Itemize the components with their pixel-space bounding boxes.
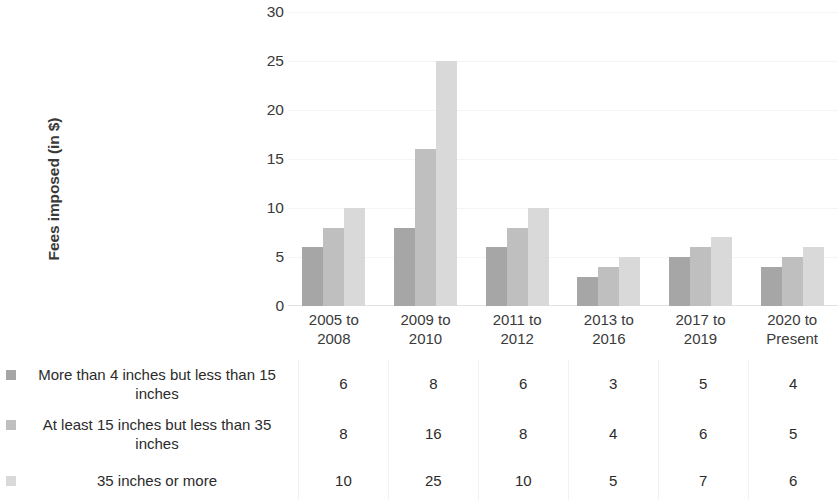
gridline-25 [288,61,838,62]
x-category-label: 2017 to2019 [655,310,747,348]
bar[interactable] [690,247,711,306]
bar[interactable] [577,277,598,306]
table-cell-value: 5 [748,407,838,460]
x-category-label-line: Present [746,329,838,348]
legend-label: At least 15 inches but less than 35 inch… [20,415,294,453]
bar[interactable] [415,149,436,306]
bar-group [302,12,365,306]
bar[interactable] [344,208,365,306]
gridline-5 [288,257,838,258]
table-cell-value: 4 [568,407,658,460]
table-cell-value: 6 [658,407,748,460]
legend-swatch-icon [6,476,16,486]
x-category-label-line: 2019 [655,329,747,348]
x-category-label: 2011 to2012 [471,310,563,348]
gridline-10 [288,208,838,209]
table-cell-value: 25 [388,460,478,500]
bar[interactable] [302,247,323,306]
table-cell-value: 5 [568,460,658,500]
table-row: 35 inches or more102510576 [0,460,838,500]
bar[interactable] [323,228,344,306]
y-tick-0: 0 [250,297,284,315]
bar[interactable] [528,208,549,306]
table-cell-value: 6 [478,360,568,407]
table-cell-value: 6 [748,460,838,500]
table-cell-value: 16 [388,407,478,460]
plot-area [288,12,838,306]
x-category-label-line: 2013 to [563,310,655,329]
gridline-30 [288,12,838,13]
bar[interactable] [711,237,732,306]
y-tick-20: 20 [250,101,284,119]
y-axis-title: Fees imposed (in $) [45,69,63,309]
x-category-label-line: 2011 to [471,310,563,329]
x-axis-baseline [288,305,838,306]
x-category-label-line: 2020 to [746,310,838,329]
table-cell-value: 10 [299,460,389,500]
data-table: More than 4 inches but less than 15 inch… [0,360,838,500]
table-row: At least 15 inches but less than 35 inch… [0,407,838,460]
legend-entry[interactable]: At least 15 inches but less than 35 inch… [0,407,299,460]
bar-group [394,12,457,306]
bar[interactable] [803,247,824,306]
y-tick-5: 5 [250,248,284,266]
table-cell-value: 8 [299,407,389,460]
gridline-20 [288,110,838,111]
x-category-label-line: 2009 to [380,310,472,329]
bar-group [761,12,824,306]
x-category-label-line: 2012 [471,329,563,348]
y-tick-25: 25 [250,52,284,70]
bar[interactable] [394,228,415,306]
table-cell-value: 4 [748,360,838,407]
bar-group [577,12,640,306]
legend-swatch-icon [6,370,16,380]
bar[interactable] [486,247,507,306]
table-cell-value: 8 [478,407,568,460]
bar[interactable] [619,257,640,306]
x-category-label-line: 2016 [563,329,655,348]
table-cell-value: 8 [388,360,478,407]
bar[interactable] [669,257,690,306]
x-category-label: 2020 toPresent [746,310,838,348]
table-cell-value: 10 [478,460,568,500]
legend-label: More than 4 inches but less than 15 inch… [20,365,294,403]
legend-entry[interactable]: More than 4 inches but less than 15 inch… [0,360,299,407]
x-category-label-line: 2017 to [655,310,747,329]
table-cell-value: 3 [568,360,658,407]
table-row: More than 4 inches but less than 15 inch… [0,360,838,407]
y-axis-tick-labels: 302520151050 [248,12,284,306]
bar[interactable] [598,267,619,306]
table-cell-value: 7 [658,460,748,500]
gridline-15 [288,159,838,160]
bar-group [669,12,732,306]
bar-group [486,12,549,306]
legend-swatch-icon [6,420,16,430]
bar[interactable] [761,267,782,306]
x-category-label: 2009 to2010 [380,310,472,348]
table-cell-value: 5 [658,360,748,407]
bar[interactable] [507,228,528,306]
legend-label: 35 inches or more [20,471,294,490]
legend-entry[interactable]: 35 inches or more [0,460,299,500]
y-tick-10: 10 [250,199,284,217]
bar[interactable] [436,61,457,306]
x-category-label-line: 2008 [288,329,380,348]
y-tick-30: 30 [250,3,284,21]
y-tick-15: 15 [250,150,284,168]
x-category-label-line: 2005 to [288,310,380,329]
x-category-label-line: 2010 [380,329,472,348]
table-cell-value: 6 [299,360,389,407]
x-category-label: 2005 to2008 [288,310,380,348]
x-axis-category-labels: 2005 to20082009 to20102011 to20122013 to… [288,310,838,350]
bar[interactable] [782,257,803,306]
x-category-label: 2013 to2016 [563,310,655,348]
